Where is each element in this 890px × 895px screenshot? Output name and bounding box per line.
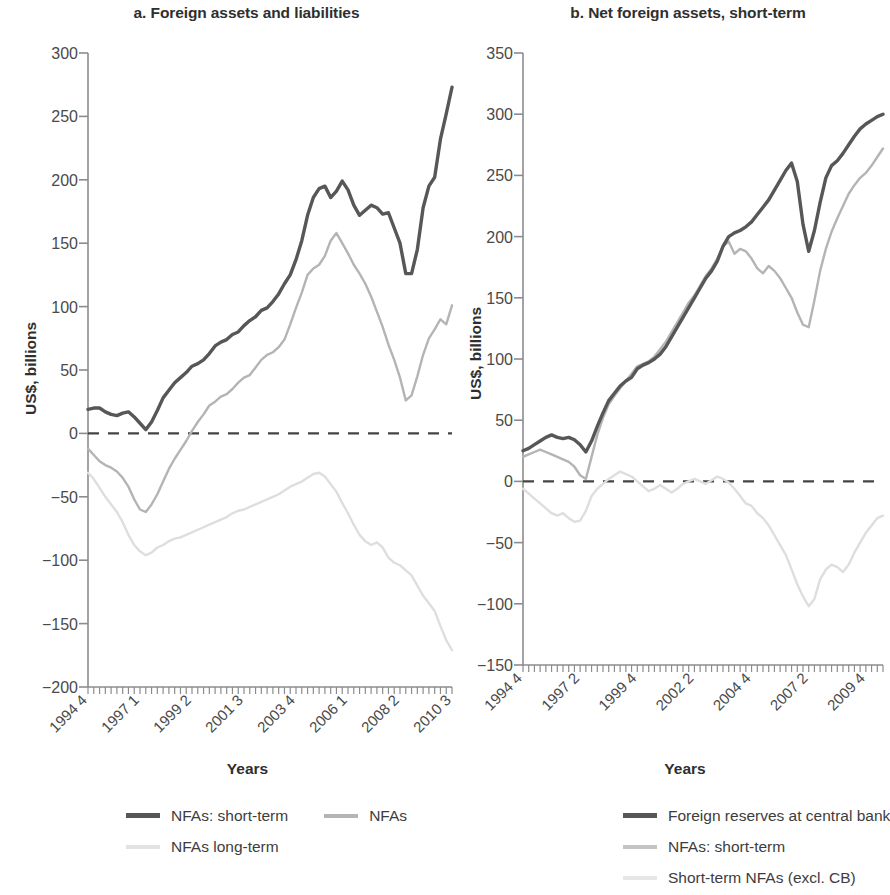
y-axis-tick-label: −100 <box>42 552 78 569</box>
x-axis-tick-label-group: 2003 4 <box>254 691 298 735</box>
legend-swatch-nfas-long-term <box>126 845 160 849</box>
x-axis-tick-label-group: 1994 4 <box>481 669 525 713</box>
y-axis-tick-label: −50 <box>486 535 513 552</box>
y-axis-tick-label: 200 <box>51 172 78 189</box>
x-axis-tick-label: 1994 4 <box>481 669 525 713</box>
panel-foreign-assets-and-liabilities: a. Foreign assets and liabilities US$, b… <box>0 0 455 895</box>
x-axis-tick-label-group: 1994 4 <box>46 691 90 735</box>
panel-a-svg: 300250200150100500−50−100−150−2001994 41… <box>0 0 455 760</box>
series-line-nfas-short-term <box>88 87 452 429</box>
x-axis-tick-label-group: 2009 4 <box>824 669 868 713</box>
legend-label-nfas-short-term: NFAs: short-term <box>171 807 288 825</box>
x-axis-tick-label: 2003 4 <box>254 691 298 735</box>
x-axis-tick-label-group: 2004 4 <box>709 669 753 713</box>
legend-row: NFAs long-term <box>0 831 455 862</box>
series-line-foreign-reserves-at-central-bank <box>523 114 883 452</box>
panel-a-plot: 300250200150100500−50−100−150−2001994 41… <box>0 0 455 700</box>
legend-row: NFAs: short-term <box>455 831 885 862</box>
x-axis-tick-label: 1997 2 <box>538 669 582 713</box>
x-axis-tick-label-group: 2001 3 <box>202 691 246 735</box>
legend-row: NFAs: short-term NFAs <box>0 800 455 831</box>
y-axis-tick-label: −150 <box>477 657 513 674</box>
x-axis-tick-label: 2001 3 <box>202 691 246 735</box>
x-axis-tick-label: 1999 2 <box>150 691 194 735</box>
legend-label-foreign-reserves: Foreign reserves at central bank <box>668 807 890 825</box>
legend-label-nfas-short-term: NFAs: short-term <box>668 838 785 856</box>
y-axis-tick-label: 100 <box>51 299 78 316</box>
legend-label-nfas: NFAs <box>369 807 407 825</box>
panel-b-legend: Foreign reserves at central bank NFAs: s… <box>455 800 885 893</box>
x-axis-tick-label: 2006 1 <box>306 691 350 735</box>
y-axis-tick-label: 300 <box>486 106 513 123</box>
x-axis-tick-label: 1999 4 <box>595 669 639 713</box>
series-line-nfas <box>88 233 452 512</box>
x-axis-tick-label-group: 1997 2 <box>538 669 582 713</box>
x-axis-tick-label: 2004 4 <box>709 669 753 713</box>
panel-b-svg: 350300250200150100500−50−100−1501994 419… <box>455 0 885 760</box>
y-axis-tick-label: −150 <box>42 616 78 633</box>
y-axis-tick-label: 0 <box>504 473 513 490</box>
y-axis-tick-label: 50 <box>495 412 513 429</box>
legend-swatch-foreign-reserves <box>623 813 657 818</box>
panel-b-x-axis-title: Years <box>455 760 885 778</box>
x-axis-tick-label: 2010 3 <box>410 691 454 735</box>
series-line-nfas-short-term <box>523 148 883 478</box>
x-axis-tick-label: 2007 2 <box>766 669 810 713</box>
y-axis-tick-label: −50 <box>51 489 78 506</box>
x-axis-tick-label-group: 1999 4 <box>595 669 639 713</box>
panel-b-plot: 350300250200150100500−50−100−1501994 419… <box>455 0 885 700</box>
legend-swatch-nfas-short-term <box>126 813 160 818</box>
x-axis-tick-label-group: 1997 1 <box>98 691 142 735</box>
legend-swatch-short-term-nfas-excl-cb <box>623 876 657 880</box>
x-axis-tick-label-group: 2008 2 <box>358 691 402 735</box>
y-axis-tick-label: 0 <box>69 425 78 442</box>
x-axis-tick-label: 1994 4 <box>46 691 90 735</box>
y-axis-tick-label: 350 <box>486 45 513 62</box>
y-axis-tick-label: 250 <box>51 108 78 125</box>
series-line-nfas-long-term <box>88 473 452 651</box>
y-axis-tick-label: 100 <box>486 351 513 368</box>
x-axis-tick-label: 1997 1 <box>98 691 142 735</box>
y-axis-tick-label: 150 <box>51 235 78 252</box>
y-axis-tick-label: −100 <box>477 596 513 613</box>
y-axis-tick-label: 300 <box>51 45 78 62</box>
x-axis-tick-label: 2008 2 <box>358 691 402 735</box>
y-axis-tick-label: 50 <box>60 362 78 379</box>
y-axis-tick-label: −200 <box>42 679 78 696</box>
x-axis-tick-label-group: 1999 2 <box>150 691 194 735</box>
x-axis-tick-label-group: 2007 2 <box>766 669 810 713</box>
legend-swatch-nfas-short-term <box>623 845 657 849</box>
x-axis-tick-label-group: 2010 3 <box>410 691 454 735</box>
y-axis-tick-label: 150 <box>486 290 513 307</box>
x-axis-tick-label-group: 2006 1 <box>306 691 350 735</box>
panel-net-foreign-assets-short-term: b. Net foreign assets, short-term US$, b… <box>455 0 885 895</box>
panel-a-legend: NFAs: short-term NFAs NFAs long-term <box>0 800 455 862</box>
series-line-short-term-nfas-excl-cb <box>523 472 883 607</box>
y-axis-tick-label: 250 <box>486 167 513 184</box>
legend-swatch-nfas <box>324 814 358 818</box>
legend-row: Foreign reserves at central bank <box>455 800 885 831</box>
x-axis-tick-label: 2009 4 <box>824 669 868 713</box>
y-axis-tick-label: 200 <box>486 229 513 246</box>
x-axis-tick-label: 2002 2 <box>652 669 696 713</box>
x-axis-tick-label-group: 2002 2 <box>652 669 696 713</box>
panel-a-x-axis-title: Years <box>0 760 455 778</box>
legend-label-short-term-nfas-excl-cb: Short-term NFAs (excl. CB) <box>668 869 856 887</box>
legend-row: Short-term NFAs (excl. CB) <box>455 862 885 893</box>
legend-label-nfas-long-term: NFAs long-term <box>171 838 279 856</box>
